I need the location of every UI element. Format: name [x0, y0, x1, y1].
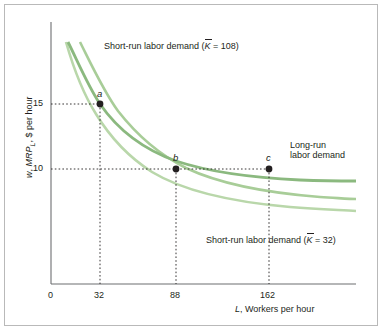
point-b-label: b	[173, 152, 178, 163]
annotation-short-run-32: Short-run labor demand (K = 32)	[206, 235, 336, 245]
point-b-marker	[173, 166, 180, 173]
point-a-marker	[97, 101, 104, 108]
point-c-label: c	[266, 152, 271, 163]
curve-short-run-108	[80, 42, 356, 199]
x-tick-88: 88	[170, 290, 180, 300]
annotation-short-run-108-text: Short-run labor demand (	[104, 41, 205, 51]
y-tick-15: 15	[33, 98, 43, 108]
annotation-long-run-line2: labor demand	[290, 150, 345, 160]
point-c-marker	[266, 166, 273, 173]
annotation-short-run-108: Short-run labor demand (K = 108)	[104, 41, 239, 51]
chart-figure: w, MRPL, $ per hour L, Workers per hour …	[0, 0, 383, 331]
annotation-short-run-32-text: Short-run labor demand (	[206, 235, 307, 245]
x-axis-label-text: , Workers per hour	[240, 304, 314, 314]
x-tick-0: 0	[48, 290, 53, 300]
k-bar-32: K	[307, 235, 313, 245]
annotation-long-run: Long-run labor demand	[290, 140, 345, 161]
curve-short-run-32	[66, 42, 356, 211]
x-tick-32: 32	[94, 290, 104, 300]
x-tick-162: 162	[260, 290, 275, 300]
point-a-label: a	[97, 88, 102, 99]
k-bar-108: K	[205, 41, 211, 51]
annotation-long-run-line1: Long-run	[290, 140, 326, 150]
y-axis-label-mrp-subscript: L	[29, 143, 36, 147]
y-tick-10: 10	[33, 163, 43, 173]
x-axis-label: L, Workers per hour	[235, 304, 314, 314]
